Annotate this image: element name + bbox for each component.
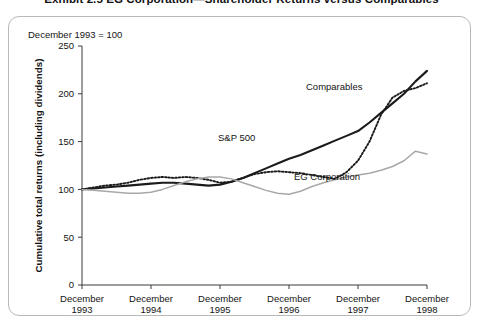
y-axis-title: Cumulative total returns (including divi… (33, 59, 44, 273)
series-annotations: ComparablesS&P 500EG Corporation (218, 81, 363, 182)
series-label-comparables: Comparables (306, 81, 363, 92)
x-tick-label: December1996 (267, 293, 311, 315)
x-tick-label: December1995 (198, 293, 242, 315)
y-tick-label: 250 (58, 40, 74, 51)
y-tick-label: 50 (63, 232, 74, 243)
series-label-eg-corporation: EG Corporation (294, 171, 360, 182)
y-tick-label: 200 (58, 88, 74, 99)
figure-root: Exhibit 2.5 EG Corporation—Shareholder R… (0, 0, 483, 326)
y-tick-label: 0 (69, 279, 74, 290)
x-tick-label: December1997 (336, 293, 380, 315)
y-tick-label: 150 (58, 136, 74, 147)
chart-plot-area: 050100150200250December1993December1994D… (0, 0, 483, 326)
x-tick-label: December1994 (129, 293, 173, 315)
line-chart: 050100150200250December1993December1994D… (0, 0, 483, 326)
y-tick-label: 100 (58, 184, 74, 195)
x-tick-label: December1993 (60, 293, 104, 315)
series-label-sp500: S&P 500 (218, 132, 255, 143)
x-tick-label: December1998 (405, 293, 449, 315)
